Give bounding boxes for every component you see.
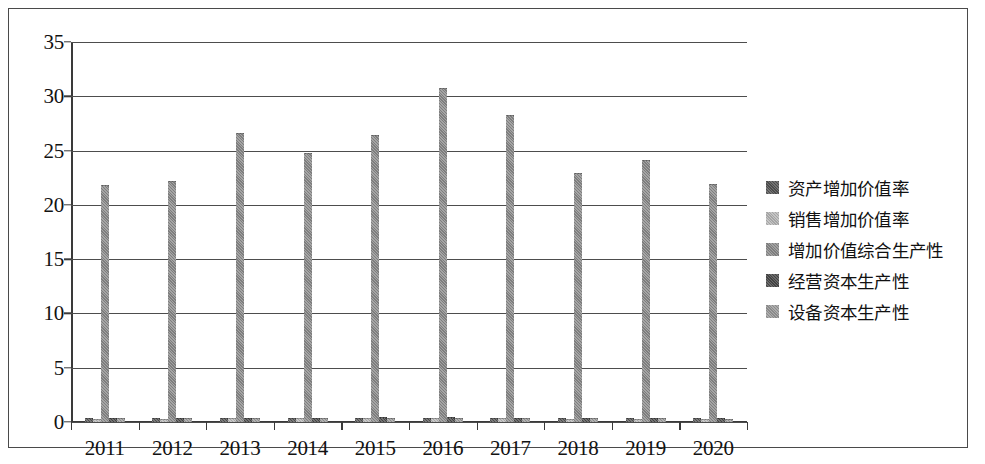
bar[interactable]	[725, 419, 733, 422]
bar[interactable]	[320, 418, 328, 422]
legend-swatch-icon	[766, 212, 779, 225]
bar[interactable]	[252, 418, 260, 422]
bar[interactable]	[220, 418, 228, 422]
bar[interactable]	[236, 133, 244, 422]
bar[interactable]	[626, 418, 634, 422]
bar[interactable]	[574, 173, 582, 422]
bar[interactable]	[371, 135, 379, 422]
category-tick-mark	[679, 422, 680, 430]
bar[interactable]	[379, 417, 387, 422]
category-label-2014: 2014	[287, 436, 328, 461]
bar[interactable]	[423, 418, 431, 422]
category-tick-mark	[477, 422, 478, 430]
bar[interactable]	[717, 418, 725, 422]
bar-group-2015	[341, 42, 409, 422]
category-tick-mark	[71, 422, 72, 430]
legend-label: 增加价值综合生产性	[788, 237, 944, 262]
bar[interactable]	[693, 418, 701, 422]
category-label-2017: 2017	[490, 436, 531, 461]
legend-item-5[interactable]: 设备资本生产性	[766, 296, 981, 327]
bar[interactable]	[447, 417, 455, 422]
category-label-2011: 2011	[85, 436, 125, 461]
value-tick-mark-35	[64, 41, 71, 42]
bar[interactable]	[590, 418, 598, 422]
bar[interactable]	[117, 418, 125, 422]
bar[interactable]	[363, 418, 371, 422]
bar[interactable]	[490, 418, 498, 422]
bar[interactable]	[288, 418, 296, 422]
value-tick-mark-25	[64, 150, 71, 151]
value-tick-mark-5	[64, 367, 71, 368]
bar[interactable]	[650, 418, 658, 422]
category-tick-mark	[612, 422, 613, 430]
legend-label: 经营资本生产性	[788, 268, 909, 293]
bar-group-2017	[477, 42, 545, 422]
bar[interactable]	[514, 418, 522, 422]
legend-label: 资产增加价值率	[788, 175, 909, 200]
bar[interactable]	[355, 418, 363, 422]
legend-item-2[interactable]: 销售增加价值率	[766, 203, 981, 234]
bar[interactable]	[582, 418, 590, 422]
bar[interactable]	[387, 418, 395, 422]
bar[interactable]	[642, 160, 650, 422]
category-label-2012: 2012	[152, 436, 193, 461]
category-label-2015: 2015	[355, 436, 396, 461]
value-tick-label-35: 35	[44, 30, 64, 55]
bar[interactable]	[439, 88, 447, 422]
bar[interactable]	[160, 419, 168, 422]
bar[interactable]	[168, 181, 176, 422]
bar[interactable]	[296, 418, 304, 422]
bar[interactable]	[431, 418, 439, 422]
legend-item-1[interactable]: 资产增加价值率	[766, 172, 981, 203]
legend-item-3[interactable]: 增加价值综合生产性	[766, 234, 981, 265]
bar[interactable]	[312, 418, 320, 422]
value-tick-mark-0	[64, 421, 71, 422]
category-label-2019: 2019	[625, 436, 666, 461]
bar[interactable]	[701, 419, 709, 422]
value-tick-label-5: 5	[54, 355, 64, 380]
bar[interactable]	[101, 185, 109, 422]
value-tick-label-30: 30	[44, 84, 64, 109]
value-tick-mark-10	[64, 313, 71, 314]
bar[interactable]	[498, 418, 506, 422]
category-tick-mark	[274, 422, 275, 430]
bar-group-2014	[274, 42, 342, 422]
bar-group-2016	[409, 42, 477, 422]
bar[interactable]	[93, 419, 101, 422]
bar[interactable]	[304, 153, 312, 422]
value-tick-mark-30	[64, 96, 71, 97]
category-label-2013: 2013	[220, 436, 261, 461]
bar[interactable]	[634, 419, 642, 422]
value-tick-mark-20	[64, 204, 71, 205]
bar[interactable]	[85, 418, 93, 422]
category-tick-mark	[206, 422, 207, 430]
bar[interactable]	[709, 184, 717, 422]
chart-frame: 35302520151050 2011201220132014201520162…	[8, 8, 968, 448]
bar-group-2012	[139, 42, 207, 422]
value-tick-mark-15	[64, 258, 71, 259]
bar[interactable]	[244, 418, 252, 422]
category-tick-mark	[139, 422, 140, 430]
legend-swatch-icon	[766, 305, 779, 318]
category-tick-mark	[341, 422, 342, 430]
category-label-2018: 2018	[558, 436, 599, 461]
bar[interactable]	[506, 115, 514, 422]
category-tick-mark	[409, 422, 410, 430]
value-tick-label-10: 10	[44, 301, 64, 326]
bar[interactable]	[558, 418, 566, 422]
bar[interactable]	[658, 418, 666, 422]
category-tick-mark	[544, 422, 545, 430]
bar-group-2020	[679, 42, 747, 422]
bar[interactable]	[109, 418, 117, 422]
legend-item-4[interactable]: 经营资本生产性	[766, 265, 981, 296]
value-tick-label-15: 15	[44, 247, 64, 272]
value-tick-label-25: 25	[44, 138, 64, 163]
bar[interactable]	[184, 418, 192, 422]
bar[interactable]	[228, 418, 236, 422]
legend-swatch-icon	[766, 181, 779, 194]
bar[interactable]	[455, 418, 463, 422]
bar[interactable]	[152, 418, 160, 422]
bar[interactable]	[566, 419, 574, 422]
bar[interactable]	[522, 418, 530, 422]
bar[interactable]	[176, 418, 184, 422]
